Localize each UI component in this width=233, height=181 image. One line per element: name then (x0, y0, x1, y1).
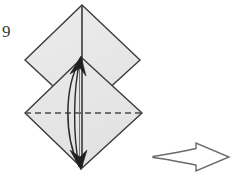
origami-diagram-canvas (0, 0, 233, 181)
next-step-arrow (153, 143, 229, 171)
origami-diagram-figure: 9 (0, 0, 233, 181)
